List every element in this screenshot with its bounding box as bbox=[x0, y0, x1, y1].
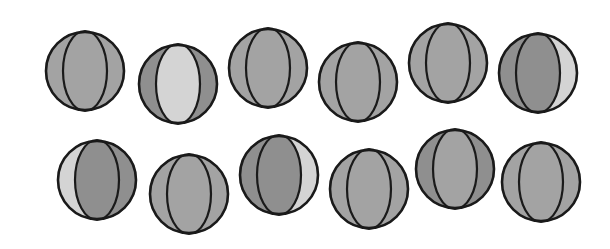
beach-ball-2 bbox=[136, 44, 220, 124]
beach-ball-5 bbox=[406, 23, 490, 103]
beach-ball-1 bbox=[43, 31, 127, 111]
beach-ball-10 bbox=[327, 149, 411, 229]
beach-ball-12 bbox=[499, 142, 583, 222]
beach-ball-9 bbox=[237, 135, 321, 215]
beach-ball-11 bbox=[413, 129, 497, 209]
beach-ball-6 bbox=[496, 33, 580, 113]
beach-ball-8 bbox=[147, 154, 231, 234]
beach-ball-4 bbox=[316, 42, 400, 122]
beach-balls-figure bbox=[0, 0, 610, 249]
beach-ball-3 bbox=[226, 28, 310, 108]
beach-ball-7 bbox=[55, 140, 139, 220]
